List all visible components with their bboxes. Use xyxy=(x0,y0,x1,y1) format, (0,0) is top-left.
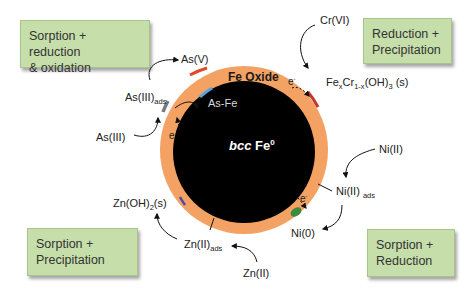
electron-ni: e- xyxy=(300,193,308,204)
box-sorption-precipitation: Sorption + Precipitation xyxy=(27,228,138,276)
cr-vi-label: Cr(VI) xyxy=(320,14,349,26)
bcc-fe-label: bcc Fe0 xyxy=(229,138,275,153)
box-line: Sorption + xyxy=(376,237,446,253)
fecr-hydroxide-label: FexCr1-x(OH)3 (s) xyxy=(326,76,409,91)
box-reduction-precipitation: Reduction + Precipitation xyxy=(363,18,452,64)
bcc-italic: bcc xyxy=(229,138,251,153)
as-v-label: As(V) xyxy=(181,53,209,65)
as-v-patch xyxy=(190,68,207,75)
arrow-zn-ads-to-oh xyxy=(157,214,177,239)
fe-oxide-label: Fe Oxide xyxy=(228,70,279,84)
ni-0-label: Ni(0) xyxy=(291,227,315,239)
zn-ii-ads-label: Zn(II)ads xyxy=(184,238,222,253)
box-line: & oxidation xyxy=(29,60,141,76)
box-sorption-reduction: Sorption + Reduction xyxy=(367,229,455,277)
box-line: Precipitation xyxy=(372,42,443,58)
arrow-cr6-to-surface xyxy=(301,25,315,68)
electron-as: e- xyxy=(169,130,177,141)
as-iii-ads-label: As(III)ads xyxy=(125,91,166,106)
arrow-ni2-to-ads xyxy=(346,149,375,177)
arrow-as3-to-as3ads xyxy=(134,118,158,136)
box-line: Reduction + xyxy=(372,26,443,42)
electron-cr: e- xyxy=(288,76,296,87)
ni-ii-label: Ni(II) xyxy=(379,143,403,155)
arrow-as3ads-to-as5 xyxy=(149,60,178,80)
arrow-ni-ads-to-ni0 xyxy=(323,205,342,229)
arrow-zn2-to-ads xyxy=(232,246,257,262)
box-sorption-reduction-oxidation: Sorption + reduction & oxidation xyxy=(20,20,150,68)
leader-ni-ads xyxy=(318,184,332,191)
box-line: Precipitation xyxy=(36,252,129,268)
zn-ii-label: Zn(II) xyxy=(243,267,269,279)
as-fe-label: As-Fe xyxy=(208,97,237,109)
zn-oh2-label: Zn(OH)2(s) xyxy=(113,197,167,212)
box-line: Sorption + reduction xyxy=(29,28,141,60)
as-iii-label: As(III) xyxy=(96,131,125,143)
box-line: Reduction xyxy=(376,253,446,269)
ni-ii-ads-label: Ni(II) ads xyxy=(336,185,375,200)
box-line: Sorption + xyxy=(36,236,129,252)
